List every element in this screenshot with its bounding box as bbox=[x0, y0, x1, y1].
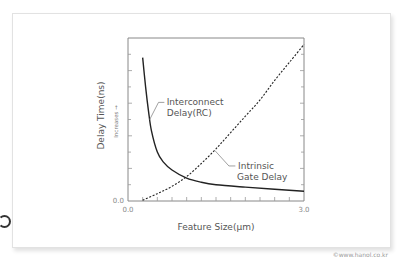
chart: 0.00.03.0 InterconnectDelay(RC)Intrinsic… bbox=[13, 14, 390, 247]
interconnect-label-line: Delay(RC) bbox=[167, 108, 212, 118]
page-edge-mark bbox=[0, 215, 11, 228]
x-axis-label: Feature Size(μm) bbox=[178, 222, 255, 232]
intrinsic-label-line: Gate Delay bbox=[237, 172, 288, 182]
x-tick-label: 0.0 bbox=[122, 206, 133, 214]
intrinsic-label-line: Intrinsic bbox=[238, 161, 274, 171]
intrinsic-leader-line bbox=[215, 150, 236, 165]
y-axis-increases-label: Increases → bbox=[113, 105, 119, 138]
x-tick-label: 3.0 bbox=[298, 206, 309, 214]
interconnect-label: InterconnectDelay(RC) bbox=[167, 97, 224, 118]
interconnect-label-line: Interconnect bbox=[167, 97, 224, 107]
watermark: ©www.hanol.co.kr bbox=[333, 251, 388, 258]
intrinsic-label: IntrinsicGate Delay bbox=[237, 161, 288, 182]
chart-card: 0.00.03.0 InterconnectDelay(RC)Intrinsic… bbox=[12, 13, 391, 248]
interconnect-leader-line bbox=[150, 102, 165, 119]
y-axis-label: Delay Time(ns) bbox=[96, 81, 106, 149]
y-tick-label: 0.0 bbox=[113, 197, 124, 205]
